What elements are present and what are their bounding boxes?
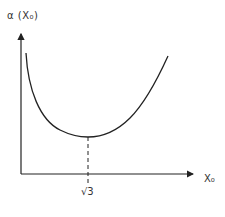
- alpha-curve: [26, 53, 168, 137]
- chart-canvas: [0, 0, 225, 217]
